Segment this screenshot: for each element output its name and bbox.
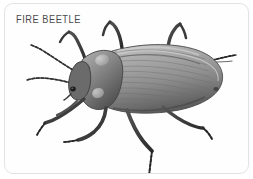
middle-right-lower-leg [163, 107, 212, 139]
eye [70, 87, 76, 92]
middle-right-leg [103, 22, 122, 48]
hind-right-leg [168, 24, 186, 47]
hind-left-leg [127, 110, 152, 174]
beetle-illustration [5, 4, 249, 174]
left-antenna [31, 45, 73, 70]
beetle-body [64, 45, 223, 114]
front-left-leg [37, 99, 84, 135]
middle-left-leg [64, 108, 106, 142]
species-card: FIRE BEETLE [4, 3, 249, 174]
beetle-svg [5, 4, 249, 174]
right-antenna [27, 78, 71, 83]
